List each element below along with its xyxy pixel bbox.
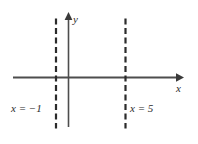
arrowhead-right-icon <box>176 73 184 82</box>
y-axis-label: y <box>73 14 78 25</box>
math-figure-graph: y x x = −1 x = 5 <box>0 0 198 144</box>
coordinate-plane-svg <box>0 0 198 144</box>
equation-label-left: x = −1 <box>11 103 42 114</box>
equation-label-right: x = 5 <box>130 103 153 114</box>
arrowhead-up-icon <box>65 12 73 20</box>
x-axis-label: x <box>176 83 181 94</box>
horizontal-axis <box>13 73 184 82</box>
vertical-axis <box>65 12 73 127</box>
